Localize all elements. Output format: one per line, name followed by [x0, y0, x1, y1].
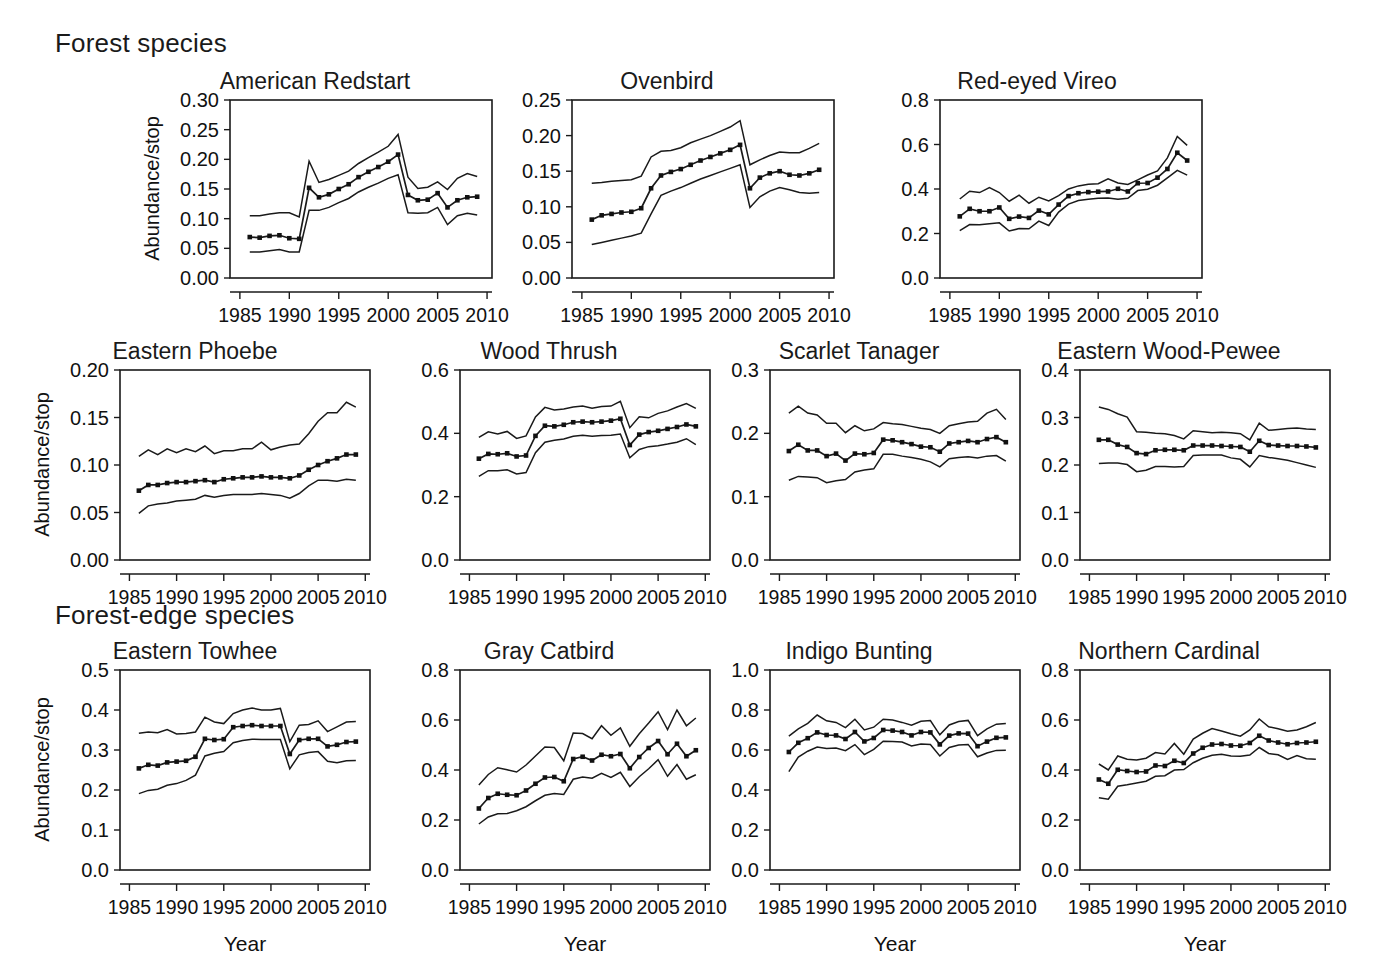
- y-tick-label: 0.05: [70, 502, 109, 524]
- y-tick-label: 0.0: [1041, 549, 1069, 571]
- data-point-marker: [336, 187, 341, 192]
- data-point-marker: [909, 733, 914, 738]
- series-mean-line: [250, 155, 477, 239]
- data-point-marker: [278, 475, 283, 480]
- data-point-marker: [250, 475, 255, 480]
- data-point-marker: [628, 766, 633, 771]
- x-tick-label: 2000: [1209, 896, 1253, 918]
- x-tick-label: 1985: [218, 304, 262, 326]
- data-point-marker: [1046, 212, 1051, 217]
- x-tick-label: 1995: [317, 304, 361, 326]
- data-point-marker: [985, 437, 990, 442]
- data-point-marker: [146, 763, 151, 768]
- data-point-marker: [425, 197, 430, 202]
- y-tick-label: 0.10: [70, 454, 109, 476]
- data-point-marker: [505, 451, 510, 456]
- y-axis-ticks: 0.00.20.40.6: [421, 359, 460, 571]
- data-point-marker: [1096, 189, 1101, 194]
- x-tick-label: 2010: [1304, 586, 1348, 608]
- y-tick-label: 0.2: [421, 486, 449, 508]
- x-tick-label: 1995: [542, 896, 586, 918]
- y-axis-ticks: 0.00.20.40.60.81.0: [731, 659, 770, 881]
- chart-svg-american-redstart: 0.000.050.100.150.200.250.30198519901995…: [138, 68, 522, 358]
- chart-svg-wood-thrush: 0.00.20.40.6198519901995200020052010: [388, 338, 740, 640]
- x-tick-label: 1990: [155, 896, 199, 918]
- chart-svg-red-eyed-vireo: 0.00.20.40.60.8198519901995200020052010: [872, 68, 1232, 358]
- x-tick-label: 1990: [978, 304, 1022, 326]
- chart-panel-ovenbird: Ovenbird0.000.050.100.150.200.2519851990…: [500, 68, 864, 358]
- chart-panel-american-redstart: American Redstart0.000.050.100.150.200.2…: [138, 68, 522, 358]
- data-point-marker: [590, 758, 595, 763]
- data-point-marker: [599, 419, 604, 424]
- data-point-marker: [1276, 443, 1281, 448]
- data-point-marker: [824, 733, 829, 738]
- data-point-marker: [514, 793, 519, 798]
- data-point-marker: [1126, 189, 1131, 194]
- data-point-marker: [718, 151, 723, 156]
- data-point-marker: [1191, 751, 1196, 756]
- data-point-marker: [1175, 150, 1180, 155]
- series-lower_ci: [479, 760, 696, 824]
- data-point-marker: [994, 435, 999, 440]
- data-point-marker: [203, 737, 208, 742]
- x-tick-label: 1990: [268, 304, 312, 326]
- data-point-marker: [817, 167, 822, 172]
- data-point-marker: [599, 752, 604, 757]
- x-tick-label: 1995: [659, 304, 703, 326]
- x-tick-label: 1985: [448, 586, 492, 608]
- data-point-marker: [269, 724, 274, 729]
- data-point-marker: [805, 448, 810, 453]
- data-point-marker: [834, 733, 839, 738]
- series-mean-line: [479, 741, 696, 809]
- data-point-marker: [777, 169, 782, 174]
- x-tick-label: 2000: [589, 586, 633, 608]
- data-point-marker: [288, 476, 293, 481]
- x-tick-label: 2000: [589, 896, 633, 918]
- x-tick-label: 1990: [805, 896, 849, 918]
- x-axis-ticks: 198519901995200020052010: [448, 884, 727, 918]
- x-tick-label: 1985: [928, 304, 972, 326]
- data-point-marker: [618, 416, 623, 421]
- data-point-marker: [495, 791, 500, 796]
- data-point-marker: [900, 730, 905, 735]
- data-point-marker: [1134, 451, 1139, 456]
- data-point-marker: [240, 724, 245, 729]
- data-series-group: [137, 708, 359, 794]
- data-series-group: [787, 715, 1009, 772]
- data-point-marker: [938, 742, 943, 747]
- data-point-marker: [1266, 738, 1271, 743]
- series-upper_ci: [1099, 719, 1316, 770]
- data-point-marker: [997, 205, 1002, 210]
- y-tick-label: 0.4: [731, 779, 759, 801]
- data-point-marker: [656, 739, 661, 744]
- data-point-marker: [807, 171, 812, 176]
- data-point-marker: [445, 205, 450, 210]
- data-point-marker: [871, 736, 876, 741]
- data-series-group: [477, 401, 699, 476]
- data-point-marker: [966, 439, 971, 444]
- data-point-marker: [344, 452, 349, 457]
- series-lower_ci: [139, 739, 356, 793]
- x-tick-label: 1990: [805, 586, 849, 608]
- x-tick-label: 2000: [1209, 586, 1253, 608]
- data-point-marker: [1165, 167, 1170, 172]
- data-point-marker: [269, 475, 274, 480]
- data-point-marker: [203, 478, 208, 483]
- x-tick-label: 2000: [366, 304, 410, 326]
- x-tick-label: 2000: [899, 586, 943, 608]
- y-tick-label: 0.0: [81, 859, 109, 881]
- data-point-marker: [871, 451, 876, 456]
- series-upper_ci: [250, 134, 477, 216]
- data-point-marker: [1257, 438, 1262, 443]
- data-point-marker: [1266, 443, 1271, 448]
- data-point-marker: [805, 736, 810, 741]
- data-point-marker: [966, 731, 971, 736]
- chart-panel-gray-catbird: Gray Catbird0.00.20.40.60.81985199019952…: [388, 638, 740, 950]
- plot-frame: [460, 370, 710, 560]
- x-tick-label: 2000: [708, 304, 752, 326]
- y-tick-label: 0.1: [731, 486, 759, 508]
- x-tick-label: 2010: [1175, 304, 1219, 326]
- series-lower_ci: [1099, 748, 1316, 800]
- x-axis-ticks: 198519901995200020052010: [218, 292, 509, 326]
- x-tick-label: 2000: [249, 586, 293, 608]
